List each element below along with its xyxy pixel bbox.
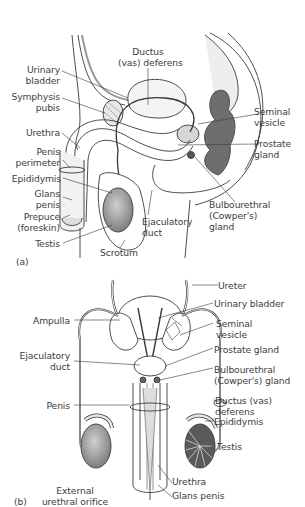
label-ductus-deferens-a: Ductus (vas) deferens <box>118 46 178 68</box>
label-testis-a: Testis <box>4 238 60 249</box>
panel-label-a: (a) <box>16 256 29 267</box>
label-bulbourethral-gland-b: Bulbourethral (Cowper's) gland <box>214 364 290 386</box>
label-ampulla: Ampulla <box>4 315 70 326</box>
label-urinary-bladder-b: Urinary bladder <box>214 298 284 309</box>
label-epididymis-b: Epididymis <box>214 416 263 427</box>
label-prepuce: Prepuce (foreskin) <box>4 211 60 233</box>
label-prostate-gland-a: Prostate gland <box>254 138 291 160</box>
label-glans-penis-a: Glans penis <box>4 188 60 210</box>
label-external-urethral-orifice: External urethral orifice <box>40 485 110 507</box>
label-bulbourethral-gland-a: Bulbourethral (Cowper's) gland <box>209 199 270 232</box>
frontal-view-drawing <box>79 280 226 500</box>
label-epididymis-a: Epididymis <box>4 173 61 184</box>
label-penis-perimeter: Penis perimeter <box>4 146 60 168</box>
label-urethra-b: Urethra <box>172 476 206 487</box>
label-ejaculatory-duct-a: Ejaculatory duct <box>142 216 192 238</box>
label-urethra-a: Urethra <box>4 127 60 138</box>
label-prostate-gland-b: Prostate gland <box>214 344 279 355</box>
label-symphysis-pubis: Symphysis pubis <box>4 91 60 113</box>
label-urinary-bladder-a: Urinary bladder <box>8 64 60 86</box>
label-ejaculatory-duct-b: Ejaculatory duct <box>4 350 70 372</box>
label-seminal-vesicle-a: Seminal vesicle <box>254 106 290 128</box>
label-ureter: Ureter <box>218 280 246 291</box>
label-testis-b: Testis <box>217 441 242 452</box>
label-penis: Penis <box>4 400 70 411</box>
label-glans-penis-b: Glans penis <box>172 490 224 501</box>
panel-label-b: (b) <box>14 496 27 507</box>
label-seminal-vesicle-b: Seminal vesicle <box>216 318 252 340</box>
label-scrotum: Scrotum <box>100 247 138 258</box>
label-ductus-deferens-b: Ductus (vas) deferens <box>215 395 272 417</box>
